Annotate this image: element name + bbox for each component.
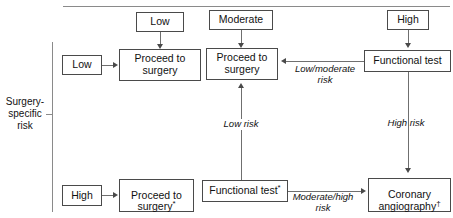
node-label: Functional test — [373, 55, 441, 67]
arrowhead-right-row2 — [113, 192, 118, 198]
node-low-top-col1: Low — [136, 12, 184, 32]
edge-label-moderate-high-risk: Moderate/high risk — [283, 192, 363, 214]
node-moderate-top-col2: Moderate — [209, 10, 273, 30]
edge-label-low-moderate-risk: Low/moderate risk — [287, 64, 363, 86]
node-label: High — [71, 190, 93, 202]
connector-functional-test-row2-to-proceed-col2 — [241, 88, 242, 180]
node-label: Low — [150, 16, 169, 28]
arrowhead-down-col3 — [405, 43, 411, 48]
arrowhead-down-to-angiography — [405, 168, 411, 173]
node-high-left-row2: High — [62, 185, 102, 206]
node-proceed-to-surgery-col2: Proceed to surgery — [206, 48, 278, 80]
node-functional-test-col3: Functional test — [364, 50, 451, 72]
arrowhead-right-col1 — [113, 62, 118, 68]
node-proceed-to-surgery-row2: Proceed to surgery* — [119, 179, 194, 212]
node-label-text: Coronary angiography† — [378, 188, 440, 212]
node-high-top-col3: High — [387, 10, 429, 30]
edge-label-low-risk: Low risk — [203, 119, 279, 130]
node-label-line1: Proceed to surgery* — [131, 189, 182, 213]
left-vertical-bracket-rule — [52, 42, 53, 212]
arrowhead-up-to-proceed-col2 — [238, 83, 244, 88]
node-label: High — [397, 14, 419, 26]
axis-label-surgery-specific-risk: Surgery- specific risk — [2, 96, 48, 131]
node-label: Proceed to surgery* — [131, 178, 182, 213]
node-label: Proceed to surgery — [135, 53, 186, 77]
connector-functional-test-to-proceed-col2 — [286, 61, 364, 62]
node-functional-test-row2: Functional test* — [202, 180, 288, 202]
node-coronary-angiography: Coronary angiography† — [368, 178, 451, 212]
node-proceed-to-surgery-col1: Proceed to surgery — [119, 49, 201, 81]
node-label: Coronary angiography† — [378, 177, 440, 212]
arrowhead-left-to-proceed-col2 — [281, 58, 286, 64]
node-label: Moderate — [219, 14, 263, 26]
edge-label-high-risk: High risk — [368, 118, 444, 129]
node-low-left-col1: Low — [62, 55, 102, 75]
node-label: Low — [72, 59, 91, 71]
top-horizontal-rule — [63, 6, 450, 7]
node-label: Proceed to surgery — [217, 52, 268, 76]
node-label: Functional test* — [209, 185, 280, 197]
flowchart-canvas: Surgery- specific risk Low Proceed to su… — [0, 0, 453, 218]
